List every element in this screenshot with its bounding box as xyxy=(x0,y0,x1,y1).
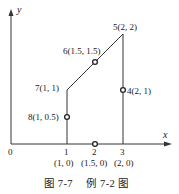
point-8-label: 8(1, 0.5) xyxy=(28,112,59,122)
x-axis-arrow-icon xyxy=(164,142,172,147)
point-8-marker xyxy=(65,115,70,120)
x-tick-3: 3 xyxy=(120,147,125,157)
y-axis-arrow-icon xyxy=(9,9,14,16)
point-7-label: 7(1, 1) xyxy=(35,83,59,93)
figure-caption: 图 7-7 例 7-2 图 xyxy=(44,175,139,190)
point-axis-marker xyxy=(93,142,98,147)
point-6-marker xyxy=(93,60,98,65)
figure-title: 例 7-2 图 xyxy=(86,178,129,189)
origin-label: 0 xyxy=(8,147,13,157)
bottom-label-1-5-0: (1.5, 0) xyxy=(81,158,107,168)
x-axis-label: x xyxy=(163,130,167,140)
bottom-label-2-0: (2, 0) xyxy=(114,158,134,168)
x-tick-2: 2 xyxy=(92,147,97,157)
point-4-label: 4(2, 1) xyxy=(127,86,151,96)
bottom-label-1-0: (1, 0) xyxy=(54,158,74,168)
point-6-label: 6(1.5, 1.5) xyxy=(63,46,101,56)
point-4-marker xyxy=(121,88,126,93)
figure-number: 图 7-7 xyxy=(44,178,73,189)
y-axis-label: y xyxy=(17,5,21,15)
x-tick-1: 1 xyxy=(64,147,69,157)
point-5-label: 5(2, 2) xyxy=(113,22,137,32)
